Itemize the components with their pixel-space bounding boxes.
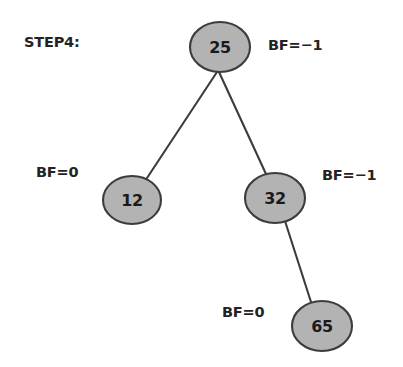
tree-graphic: 25 12 32 65 xyxy=(0,0,403,367)
balance-factor-left: BF=0 xyxy=(36,165,78,180)
balance-factor-root: BF=−1 xyxy=(268,38,322,53)
tree-node-root[interactable]: 25 xyxy=(190,22,250,72)
tree-node-bottom[interactable]: 65 xyxy=(292,301,352,351)
tree-node-left[interactable]: 12 xyxy=(103,176,161,224)
step-label: STEP4: xyxy=(24,35,80,50)
balance-factor-right: BF=−1 xyxy=(322,168,376,183)
edge-root-to-left xyxy=(147,72,217,178)
tree-node-right[interactable]: 32 xyxy=(245,173,305,223)
edge-right-to-bottom xyxy=(285,221,311,302)
edge-root-to-right xyxy=(219,72,266,174)
balance-factor-bottom: BF=0 xyxy=(222,305,264,320)
node-value-bottom: 65 xyxy=(311,317,333,336)
avl-tree-diagram: 25 12 32 65 STEP4: BF=−1 BF=0 BF=−1 BF=0 xyxy=(0,0,403,367)
node-value-root: 25 xyxy=(209,38,231,57)
node-value-right: 32 xyxy=(264,189,286,208)
node-value-left: 12 xyxy=(121,191,143,210)
